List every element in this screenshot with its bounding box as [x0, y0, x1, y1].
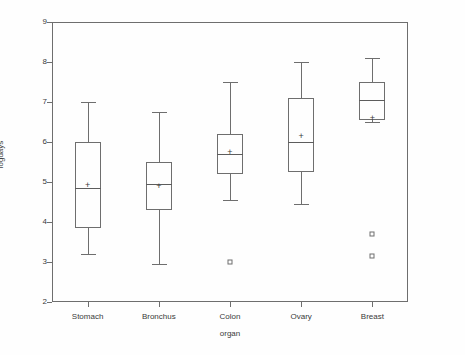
whisker-cap-lower: [294, 204, 309, 205]
mean-marker: +: [299, 133, 304, 140]
y-tick-label: 2: [27, 298, 47, 306]
y-tick-label: 7: [27, 98, 47, 106]
whisker-upper: [88, 102, 89, 142]
y-tick-mark: [47, 62, 52, 63]
y-tick: 3: [0, 258, 47, 266]
mean-marker: +: [227, 149, 232, 156]
x-tick-mark: [301, 302, 302, 307]
outlier-point: [370, 232, 375, 237]
x-tick-mark: [230, 302, 231, 307]
x-tick-label-ovary: Ovary: [291, 312, 312, 321]
y-tick: 9: [0, 18, 47, 26]
whisker-cap-upper: [152, 112, 167, 113]
mean-marker: +: [156, 183, 161, 190]
boxplot-figure: 23456789 StomachBronchusColonOvaryBreast…: [0, 0, 465, 355]
outlier-point: [370, 254, 375, 259]
y-tick: 5: [0, 178, 47, 186]
y-tick-label: 3: [27, 258, 47, 266]
x-tick-label-bronchus: Bronchus: [142, 312, 176, 321]
x-tick-mark: [372, 302, 373, 307]
y-tick: 7: [0, 98, 47, 106]
whisker-upper: [230, 82, 231, 134]
whisker-cap-upper: [365, 58, 380, 59]
y-tick: 4: [0, 218, 47, 226]
x-tick-mark: [88, 302, 89, 307]
whisker-cap-lower: [81, 254, 96, 255]
x-tick-mark: [159, 302, 160, 307]
y-tick-label: 8: [27, 58, 47, 66]
y-tick-mark: [47, 142, 52, 143]
whisker-cap-upper: [81, 102, 96, 103]
x-tick-label-stomach: Stomach: [72, 312, 104, 321]
y-tick: 8: [0, 58, 47, 66]
whisker-upper: [301, 62, 302, 98]
outlier-point: [228, 260, 233, 265]
whisker-lower: [159, 210, 160, 264]
median-line: [359, 100, 385, 101]
whisker-cap-lower: [152, 264, 167, 265]
y-tick: 6: [0, 138, 47, 146]
x-axis-label: organ: [220, 329, 240, 338]
whisker-cap-upper: [294, 62, 309, 63]
y-tick-label: 4: [27, 218, 47, 226]
y-tick-label: 6: [27, 138, 47, 146]
whisker-lower: [230, 174, 231, 200]
y-tick-mark: [47, 222, 52, 223]
y-tick: 2: [0, 298, 47, 306]
y-tick-mark: [47, 262, 52, 263]
y-tick-label: 9: [27, 18, 47, 26]
y-tick-mark: [47, 102, 52, 103]
y-tick-mark: [47, 302, 52, 303]
y-axis-label: logdays: [0, 141, 5, 169]
whisker-cap-lower: [223, 200, 238, 201]
x-tick-label-breast: Breast: [361, 312, 384, 321]
x-tick-label-colon: Colon: [220, 312, 241, 321]
whisker-upper: [372, 58, 373, 82]
whisker-lower: [301, 172, 302, 204]
y-tick-label: 5: [27, 178, 47, 186]
y-tick-mark: [47, 182, 52, 183]
mean-marker: +: [85, 182, 90, 189]
whisker-lower: [88, 228, 89, 254]
mean-marker: +: [370, 115, 375, 122]
y-tick-mark: [47, 22, 52, 23]
median-line: [288, 142, 314, 143]
whisker-cap-upper: [223, 82, 238, 83]
whisker-upper: [159, 112, 160, 162]
